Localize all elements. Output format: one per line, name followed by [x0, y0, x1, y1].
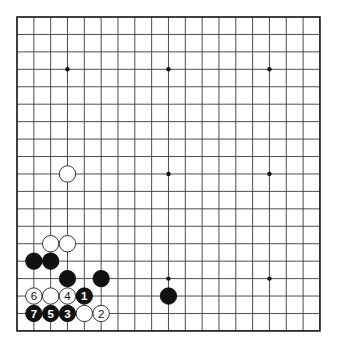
- star-point: [267, 172, 271, 176]
- white-stone: [42, 288, 58, 304]
- move-number: 5: [47, 308, 54, 320]
- black-stone-disc: [26, 253, 42, 269]
- black-stone: 1: [76, 288, 92, 304]
- black-stone: 5: [42, 305, 58, 321]
- white-stone: 6: [26, 288, 42, 304]
- black-stone: [42, 253, 58, 269]
- star-point: [166, 172, 170, 176]
- move-number: 7: [31, 308, 37, 320]
- move-number: 3: [64, 308, 70, 320]
- black-stone-disc: [59, 270, 75, 286]
- star-point: [65, 67, 69, 71]
- white-stone-disc: [59, 166, 75, 182]
- black-stone: [59, 270, 75, 286]
- white-stone-disc: [42, 288, 58, 304]
- black-stone: 3: [59, 305, 75, 321]
- star-point: [267, 67, 271, 71]
- black-stone: [26, 253, 42, 269]
- move-number: 6: [31, 290, 37, 302]
- white-stone: 4: [59, 288, 75, 304]
- move-number: 1: [81, 290, 88, 302]
- white-stone: [59, 236, 75, 252]
- black-stone: 7: [26, 305, 42, 321]
- white-stone: 2: [93, 305, 109, 321]
- black-stone: [160, 288, 176, 304]
- black-stone-disc: [93, 270, 109, 286]
- white-stone: [76, 305, 92, 321]
- white-stone: [42, 236, 58, 252]
- white-stone-disc: [76, 305, 92, 321]
- white-stone-disc: [59, 236, 75, 252]
- black-stone-disc: [160, 288, 176, 304]
- star-point: [166, 67, 170, 71]
- star-point: [267, 276, 271, 280]
- move-number: 4: [64, 290, 71, 302]
- white-stone-disc: [42, 236, 58, 252]
- go-board-diagram: 6417532: [0, 0, 338, 345]
- white-stone: [59, 166, 75, 182]
- go-board: 6417532: [0, 0, 338, 345]
- move-number: 2: [98, 308, 104, 320]
- black-stone: [93, 270, 109, 286]
- star-point: [166, 276, 170, 280]
- black-stone-disc: [42, 253, 58, 269]
